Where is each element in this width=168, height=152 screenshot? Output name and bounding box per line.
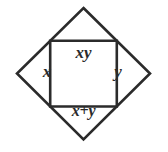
- cell-label-bottom: x+y: [71, 102, 97, 120]
- cell-label-right: y: [112, 62, 122, 81]
- cell-label-top: xy: [74, 43, 92, 62]
- diamond-diagram: xy x y x+y: [0, 0, 168, 152]
- diamond-figure: xy x y x+y: [0, 0, 168, 152]
- outer-diamond-outline: [17, 8, 150, 140]
- cell-label-left: x: [42, 62, 52, 81]
